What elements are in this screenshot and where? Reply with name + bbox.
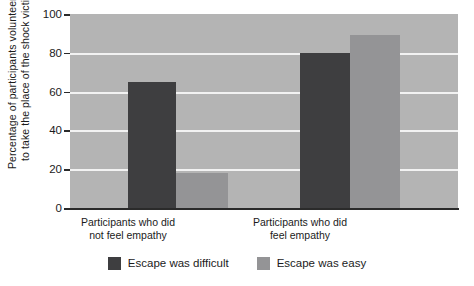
- x-category-label-empathy-line-2: feel empathy: [215, 229, 385, 242]
- legend-entry-escape-was-difficult: Escape was difficult: [108, 257, 229, 270]
- y-tick-label-100: 100: [28, 9, 62, 21]
- y-tick-label-60: 60: [28, 87, 62, 99]
- y-axis-title-line-1: Percentage of participants volunteering: [6, 0, 19, 176]
- bar-empathy-escape-easy: [350, 35, 400, 208]
- bar-empathy-escape-difficult: [300, 53, 350, 208]
- x-category-label-empathy: Participants who did feel empathy: [215, 216, 385, 242]
- chart-legend: Escape was difficult Escape was easy: [0, 252, 474, 274]
- y-tick-label-0: 0: [28, 203, 62, 215]
- legend-label-escape-was-difficult: Escape was difficult: [128, 257, 229, 270]
- bar-no-empathy-escape-difficult: [128, 82, 176, 208]
- plot-area: [70, 14, 458, 208]
- y-tick-label-40: 40: [28, 125, 62, 137]
- legend-label-escape-was-easy: Escape was easy: [277, 257, 367, 270]
- legend-entry-escape-was-easy: Escape was easy: [257, 257, 367, 270]
- x-category-label-no-empathy: Participants who did not feel empathy: [43, 216, 213, 242]
- bar-no-empathy-escape-easy: [176, 173, 228, 208]
- y-tick-label-20: 20: [28, 164, 62, 176]
- y-tick-label-80: 80: [28, 48, 62, 60]
- plot-frame: [70, 14, 458, 208]
- chart-figure: Percentage of participants volunteering …: [0, 0, 474, 286]
- x-category-label-empathy-line-1: Participants who did: [215, 216, 385, 229]
- legend-swatch-escape-was-difficult: [108, 257, 121, 270]
- x-category-label-no-empathy-line-2: not feel empathy: [43, 229, 213, 242]
- x-category-label-no-empathy-line-1: Participants who did: [43, 216, 213, 229]
- x-axis-line: [70, 208, 459, 210]
- legend-swatch-escape-was-easy: [257, 257, 270, 270]
